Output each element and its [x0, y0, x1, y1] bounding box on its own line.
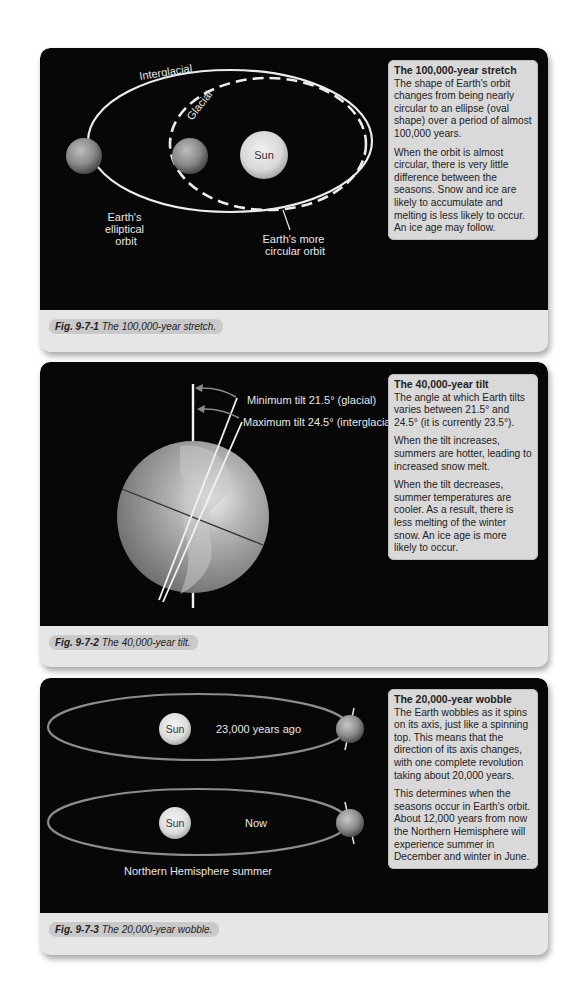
figure-caption-text: The 20,000-year wobble. — [102, 924, 213, 935]
info-title: The 20,000-year wobble — [394, 693, 532, 706]
figure-panel-wobble: Sun 23,000 years ago Sun Now Northern He… — [40, 678, 548, 955]
sun-label: Sun — [166, 817, 185, 829]
earth-glacial-icon — [172, 138, 208, 174]
info-paragraph: This determines when the seasons occur i… — [394, 788, 532, 864]
figure-caption: Fig. 9-7-1 The 100,000-year stretch. — [48, 318, 224, 335]
info-box-tilt: The 40,000-year tilt The angle at which … — [388, 374, 538, 560]
earth-interglacial-icon — [66, 138, 102, 174]
info-paragraph: The Earth wobbles as it spins on its axi… — [394, 707, 532, 783]
orbit-now — [48, 789, 348, 855]
figure-caption: Fig. 9-7-2 The 40,000-year tilt. — [48, 634, 199, 651]
info-box-wobble: The 20,000-year wobble The Earth wobbles… — [388, 689, 538, 869]
max-tilt-label: Maximum tilt 24.5° (interglacial) — [243, 416, 397, 428]
glacial-label: Glacial — [184, 88, 214, 122]
info-box-stretch: The 100,000-year stretch The shape of Ea… — [388, 60, 538, 240]
interglacial-label: Interglacial — [138, 62, 192, 82]
sun-label: Sun — [166, 723, 185, 735]
now-label: Now — [245, 817, 267, 829]
figure-number: Fig. 9-7-2 — [55, 637, 99, 648]
figure-caption: Fig. 9-7-3 The 20,000-year wobble. — [48, 921, 220, 938]
info-title: The 40,000-year tilt — [394, 378, 532, 391]
figure-caption-text: The 100,000-year stretch. — [102, 321, 217, 332]
figure-panel-stretch: Sun Interglacial Glacial Earth's ellipti… — [40, 48, 548, 352]
figure-number: Fig. 9-7-1 — [55, 321, 99, 332]
nh-summer-label: Northern Hemisphere summer — [124, 865, 272, 877]
circular-orbit-label: Earth's more circular orbit — [262, 233, 327, 257]
info-title: The 100,000-year stretch — [394, 64, 532, 77]
sun-label: Sun — [254, 149, 274, 161]
figure-number: Fig. 9-7-3 — [55, 924, 99, 935]
earth-past-icon — [336, 715, 364, 743]
earth-now-icon — [336, 809, 364, 837]
info-paragraph: The angle at which Earth tilts varies be… — [394, 392, 532, 430]
info-paragraph: When the tilt decreases, summer temperat… — [394, 479, 532, 555]
tilt-arrow-min-icon — [198, 388, 236, 397]
orbit-past — [48, 694, 348, 760]
figure-panel-tilt: Minimum tilt 21.5° (glacial) Maximum til… — [40, 362, 548, 667]
info-paragraph: The shape of Earth's orbit changes from … — [394, 78, 532, 141]
info-paragraph: When the tilt increases, summers are hot… — [394, 435, 532, 473]
info-paragraph: When the orbit is almost circular, there… — [394, 147, 532, 235]
min-tilt-label: Minimum tilt 21.5° (glacial) — [247, 394, 376, 406]
elliptical-orbit-label: Earth's elliptical orbit — [105, 211, 147, 247]
past-label: 23,000 years ago — [216, 723, 301, 735]
figure-caption-text: The 40,000-year tilt. — [102, 637, 191, 648]
